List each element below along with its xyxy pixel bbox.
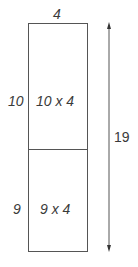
total-length-label: 19 [114,130,130,144]
